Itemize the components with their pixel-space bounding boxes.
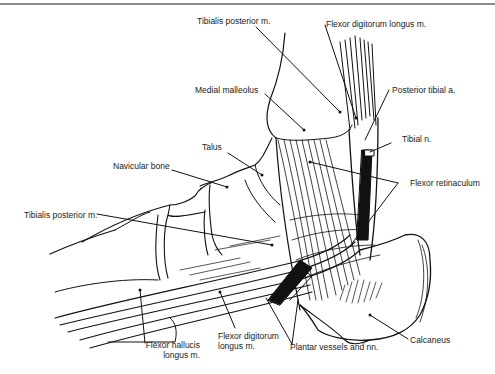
label-medial-malleolus: Medial malleolus <box>195 85 258 95</box>
label-flexor-hallucis-longus: Flexor hallucis longus m. <box>140 340 200 360</box>
label-flexor-retinaculum: Flexor retinaculum <box>410 178 480 188</box>
label-calcaneus: Calcaneus <box>410 335 450 345</box>
label-tibial-nerve: Tibial n. <box>402 134 431 144</box>
label-flexor-hallucis-line1: Flexor hallucis <box>140 340 200 350</box>
label-flexor-digitorum-longus-bottom: Flexor digitorum longus m. <box>218 331 279 351</box>
label-posterior-tibial-artery: Posterior tibial a. <box>392 85 455 95</box>
label-navicular-bone: Navicular bone <box>113 161 170 171</box>
label-flexor-digitorum-line1: Flexor digitorum <box>218 331 279 341</box>
label-tibialis-posterior-left: Tibialis posterior m. <box>24 210 97 220</box>
label-tibialis-posterior-top: Tibialis posterior m. <box>197 16 270 26</box>
label-talus: Talus <box>202 142 222 152</box>
label-flexor-digitorum-line2: longus m. <box>218 341 279 351</box>
label-plantar-vessels: Plantar vessels and nn. <box>290 342 378 352</box>
label-flexor-hallucis-line2: longus m. <box>140 350 200 360</box>
label-flexor-digitorum-longus-top: Flexor digitorum longus m. <box>326 19 426 29</box>
